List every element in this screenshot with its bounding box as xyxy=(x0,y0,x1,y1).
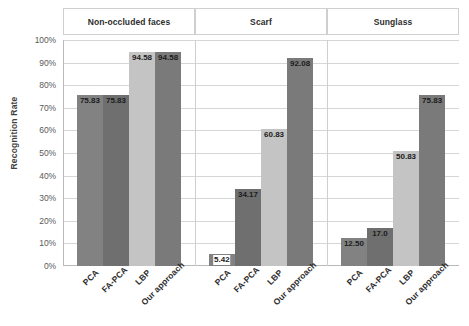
bar-value-label: 60.83 xyxy=(263,130,285,140)
chart-panel: Non-occluded faces75.83PCA75.83FA-PCA94.… xyxy=(63,40,195,266)
grouped-bar-chart: Recognition Rate 100%90%80%70%60%50%40%3… xyxy=(0,0,469,326)
y-axis-tick-label: 100% xyxy=(35,35,56,45)
bar[interactable]: 75.83 xyxy=(419,95,445,266)
panel-separator xyxy=(195,40,196,266)
bar-value-label: 50.83 xyxy=(395,152,417,162)
y-axis-tick-label: 40% xyxy=(39,171,56,181)
bar-value-label: 34.17 xyxy=(237,190,259,200)
bar-value-label: 94.58 xyxy=(157,53,179,63)
x-axis-tick-label: LBP xyxy=(133,268,152,287)
bar-value-label: 94.58 xyxy=(131,53,153,63)
panel-title-box: Non-occluded faces xyxy=(63,8,195,35)
bar[interactable]: 12.50 xyxy=(341,238,367,266)
bar[interactable]: 75.83 xyxy=(77,95,103,266)
bar-value-label: 75.83 xyxy=(105,96,127,106)
x-axis-tick-label: PCA xyxy=(345,267,365,287)
panel-bars: 5.42PCA34.17FA-PCA60.83LBP92.08Our appro… xyxy=(195,40,327,266)
panel-bars: 75.83PCA75.83FA-PCA94.58LBP94.58Our appr… xyxy=(63,40,195,266)
chart-panel: Sunglass12.50PCA17.0FA-PCA50.83LBP75.83O… xyxy=(327,40,459,266)
y-axis-tick-label: 90% xyxy=(39,58,56,68)
y-axis-tick-label: 70% xyxy=(39,103,56,113)
x-axis-tick-label: LBP xyxy=(397,268,416,287)
bar[interactable]: 17.0 xyxy=(367,228,393,266)
x-axis-tick-label: Our approach xyxy=(271,260,318,307)
y-axis-tick-label: 10% xyxy=(39,238,56,248)
x-axis-tick-label: LBP xyxy=(265,268,284,287)
plot-area: Non-occluded faces75.83PCA75.83FA-PCA94.… xyxy=(63,40,459,266)
x-axis-tick-label: Our approach xyxy=(403,260,450,307)
x-axis-tick-label: FA-PCA xyxy=(364,265,394,295)
panel-title-box: Sunglass xyxy=(327,8,459,35)
panel-title-box: Scarf xyxy=(195,8,327,35)
bar[interactable]: 60.83 xyxy=(261,129,287,266)
y-axis-tick-label: 50% xyxy=(39,148,56,158)
bar-value-label: 75.83 xyxy=(421,96,443,106)
y-axis-tick-label: 60% xyxy=(39,125,56,135)
panel-title-label: Sunglass xyxy=(374,17,413,27)
panel-bars: 12.50PCA17.0FA-PCA50.83LBP75.83Our appro… xyxy=(327,40,459,266)
panel-title-label: Non-occluded faces xyxy=(88,17,171,27)
bar[interactable]: 92.08 xyxy=(287,58,313,266)
bar[interactable]: 75.83 xyxy=(103,95,129,266)
x-axis-tick-label: FA-PCA xyxy=(100,265,130,295)
x-axis-tick-label: Our approach xyxy=(139,260,186,307)
y-axis-tick-label: 80% xyxy=(39,80,56,90)
y-axis-tick-label: 20% xyxy=(39,216,56,226)
y-axis-tick-label: 0% xyxy=(44,261,56,271)
bar[interactable]: 94.58 xyxy=(155,52,181,266)
bar[interactable]: 94.58 xyxy=(129,52,155,266)
panel-title-label: Scarf xyxy=(250,17,272,27)
bar-value-label: 92.08 xyxy=(289,59,311,69)
y-axis-tick-label: 30% xyxy=(39,193,56,203)
panel-separator xyxy=(327,40,328,266)
bar-value-label: 5.42 xyxy=(213,255,231,265)
bar[interactable]: 50.83 xyxy=(393,151,419,266)
x-axis-tick-label: PCA xyxy=(213,267,233,287)
bar-value-label: 12.50 xyxy=(343,239,365,249)
bar-value-label: 75.83 xyxy=(79,96,101,106)
x-axis-tick-label: PCA xyxy=(81,267,101,287)
y-axis-title: Recognition Rate xyxy=(9,73,19,193)
bar[interactable]: 5.42 xyxy=(209,254,235,266)
chart-panel: Scarf5.42PCA34.17FA-PCA60.83LBP92.08Our … xyxy=(195,40,327,266)
bar[interactable]: 34.17 xyxy=(235,189,261,266)
bar-value-label: 17.0 xyxy=(371,229,389,239)
x-axis-tick-label: FA-PCA xyxy=(232,265,262,295)
y-axis-tick-labels: 100%90%80%70%60%50%40%30%20%10%0% xyxy=(20,40,60,266)
